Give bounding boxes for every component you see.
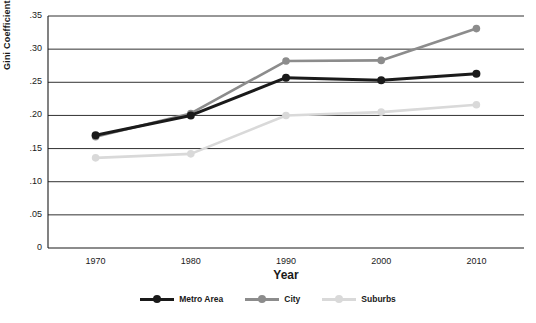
y-tick-label: .15: [16, 143, 42, 153]
data-point: [187, 111, 195, 119]
data-point: [187, 150, 195, 158]
data-point: [282, 57, 290, 65]
y-tick-label: .30: [16, 43, 42, 53]
x-tick-label: 1970: [76, 256, 116, 266]
series-line: [96, 74, 477, 136]
x-axis-title: Year: [18, 268, 536, 282]
y-tick-label: .10: [16, 176, 42, 186]
y-tick-label: .05: [16, 209, 42, 219]
legend-label: Suburbs: [361, 294, 395, 304]
y-tick-label: .25: [16, 76, 42, 86]
legend-label: Metro Area: [179, 294, 223, 304]
data-point: [377, 76, 385, 84]
legend-swatch: [245, 294, 279, 304]
data-point: [282, 74, 290, 82]
data-point: [473, 25, 481, 33]
data-point: [472, 70, 480, 78]
x-tick-label: 2010: [456, 256, 496, 266]
legend-item: Suburbs: [322, 294, 395, 304]
legend-swatch: [140, 294, 174, 304]
x-tick-label: 2000: [361, 256, 401, 266]
legend-item: City: [245, 294, 300, 304]
data-point: [377, 108, 385, 116]
data-point: [92, 154, 100, 162]
legend-swatch: [322, 294, 356, 304]
data-point: [92, 131, 100, 139]
legend-label: City: [284, 294, 300, 304]
y-tick-label: .20: [16, 109, 42, 119]
legend-dot: [153, 295, 161, 303]
chart-legend: Metro AreaCitySuburbs: [0, 294, 536, 304]
y-axis-title: Gini Coefficient: [2, 0, 12, 70]
y-tick-label: 0: [16, 242, 42, 252]
legend-dot: [335, 295, 343, 303]
legend-item: Metro Area: [140, 294, 223, 304]
data-point: [282, 112, 290, 120]
data-point: [473, 101, 481, 109]
x-tick-label: 1990: [266, 256, 306, 266]
x-tick-label: 1980: [171, 256, 211, 266]
y-tick-label: .35: [16, 10, 42, 20]
legend-dot: [258, 295, 266, 303]
data-point: [377, 57, 385, 65]
gini-coefficient-line-chart: Gini Coefficient 0.05.10.15.20.25.30.35 …: [0, 0, 536, 323]
